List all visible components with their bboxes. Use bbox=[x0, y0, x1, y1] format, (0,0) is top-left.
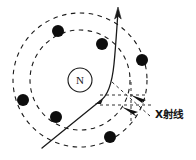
xray-arrow-lower bbox=[122, 107, 138, 117]
electron-left bbox=[17, 94, 29, 106]
xray-arrowheads-group bbox=[122, 95, 146, 117]
xray-construction-lines bbox=[100, 82, 152, 122]
xray-label: X射线 bbox=[155, 108, 184, 120]
xray-arrow-upper bbox=[131, 95, 146, 105]
atomic-diagram-figure: N bbox=[0, 0, 196, 160]
electron-right bbox=[136, 54, 148, 66]
nucleus-label: N bbox=[76, 74, 84, 86]
incident-path-segment bbox=[42, 101, 100, 148]
deflected-path-segment bbox=[100, 12, 118, 101]
diagram-canvas: N bbox=[0, 0, 196, 160]
electron-upper-left bbox=[52, 25, 64, 37]
nucleus-group: N bbox=[68, 68, 92, 92]
electron-lower-left bbox=[50, 111, 62, 123]
electron-bottom bbox=[104, 131, 116, 143]
electron-upper-mid bbox=[96, 38, 108, 50]
